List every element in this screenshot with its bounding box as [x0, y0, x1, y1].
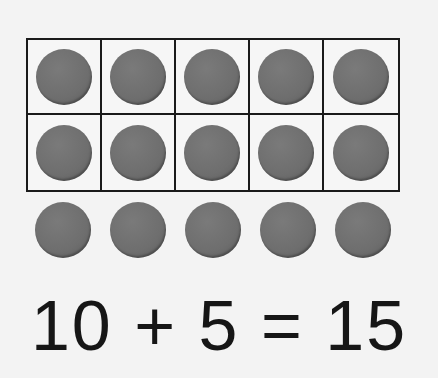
- counter-circle: [258, 49, 314, 105]
- counter-circle: [185, 202, 241, 258]
- counter-circle: [110, 125, 166, 181]
- ten-frame-cell: [176, 40, 250, 115]
- counter-circle: [110, 202, 166, 258]
- counter-circle: [35, 202, 91, 258]
- ten-frame-cell: [250, 115, 324, 190]
- ten-frame: [26, 38, 400, 192]
- counter-circle: [333, 49, 389, 105]
- counter-circle: [258, 125, 314, 181]
- ten-frame-cell: [324, 115, 398, 190]
- counter-circle: [335, 202, 391, 258]
- counter-circle: [184, 49, 240, 105]
- ten-frame-cell: [176, 115, 250, 190]
- extra-counters-row: [26, 199, 400, 261]
- counter-circle: [333, 125, 389, 181]
- ten-frame-cell: [28, 40, 102, 115]
- ten-frame-cell: [102, 40, 176, 115]
- equation: 10 + 5 = 15: [0, 286, 438, 366]
- counter-circle: [260, 202, 316, 258]
- counter-circle: [110, 49, 166, 105]
- ten-frame-cell: [28, 115, 102, 190]
- ten-frame-cell: [250, 40, 324, 115]
- counter-circle: [184, 125, 240, 181]
- ten-frame-cell: [102, 115, 176, 190]
- ten-frame-cell: [324, 40, 398, 115]
- counter-circle: [36, 125, 92, 181]
- counter-circle: [36, 49, 92, 105]
